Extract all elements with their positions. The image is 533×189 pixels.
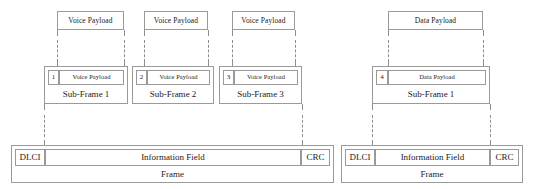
connector-dashed bbox=[490, 115, 491, 137]
sub-frame-number-box-2: 2 bbox=[136, 70, 147, 85]
top-payload-label-3: Voice Payload bbox=[241, 17, 285, 25]
crc-label-left: CRC bbox=[306, 153, 324, 162]
dlci-box-right: DLCI bbox=[345, 149, 375, 166]
information-field-box-left: Information Field bbox=[45, 149, 301, 166]
sub-frame-payload-label-4: Data Payload bbox=[419, 74, 454, 81]
frame-caption-left: Frame bbox=[11, 167, 334, 181]
information-field-box-right: Information Field bbox=[375, 149, 490, 166]
sub-frame-payload-label-2: Voice Payload bbox=[160, 74, 198, 81]
crc-box-left: CRC bbox=[301, 149, 330, 166]
frame-caption-right: Frame bbox=[341, 167, 523, 181]
information-field-label-right: Information Field bbox=[401, 153, 465, 162]
dlci-label-left: DLCI bbox=[20, 153, 41, 162]
connector-dashed bbox=[232, 40, 233, 62]
connector-dashed bbox=[57, 40, 58, 62]
sub-frame-number-2: 2 bbox=[140, 74, 144, 81]
sub-frame-caption-3: Sub-Frame 3 bbox=[219, 87, 302, 102]
stub-line bbox=[483, 30, 484, 36]
connector-dashed bbox=[302, 115, 303, 137]
stub-line bbox=[44, 104, 45, 110]
dlci-box-left: DLCI bbox=[15, 149, 45, 166]
sub-frame-number-1: 1 bbox=[52, 74, 56, 81]
stub-line bbox=[57, 30, 58, 36]
connector-dashed bbox=[372, 115, 373, 137]
stub-line bbox=[232, 30, 233, 36]
sub-frame-caption-2: Sub-Frame 2 bbox=[132, 87, 214, 102]
connector-dashed bbox=[44, 115, 45, 137]
stub-line bbox=[124, 30, 125, 36]
connector-dashed bbox=[483, 40, 484, 62]
sub-frame-payload-box-2: Voice Payload bbox=[147, 70, 210, 85]
sub-frame-number-box-4: 4 bbox=[376, 70, 388, 85]
top-payload-label-1: Voice Payload bbox=[68, 17, 112, 25]
connector-dashed bbox=[208, 40, 209, 62]
top-payload-box-3: Voice Payload bbox=[232, 11, 295, 30]
top-payload-label-4: Data Payload bbox=[415, 17, 456, 25]
sub-frame-payload-box-3: Voice Payload bbox=[234, 70, 298, 85]
sub-frame-caption-1: Sub-Frame 1 bbox=[44, 87, 128, 102]
stub-line bbox=[144, 30, 145, 36]
dlci-label-right: DLCI bbox=[350, 153, 371, 162]
top-payload-box-1: Voice Payload bbox=[57, 11, 124, 30]
diagram-canvas: Voice Payload Voice Payload Voice Payloa… bbox=[0, 0, 533, 189]
top-payload-label-2: Voice Payload bbox=[154, 17, 198, 25]
stub-line bbox=[388, 30, 389, 36]
top-payload-box-4: Data Payload bbox=[388, 11, 483, 30]
crc-box-right: CRC bbox=[490, 149, 519, 166]
sub-frame-number-box-1: 1 bbox=[48, 70, 59, 85]
sub-frame-caption-4: Sub-Frame 1 bbox=[372, 87, 490, 102]
stub-line bbox=[490, 104, 491, 110]
information-field-label-left: Information Field bbox=[141, 153, 205, 162]
sub-frame-payload-box-1: Voice Payload bbox=[59, 70, 124, 85]
connector-dashed bbox=[388, 40, 389, 62]
sub-frame-number-3: 3 bbox=[227, 74, 231, 81]
sub-frame-payload-box-4: Data Payload bbox=[388, 70, 486, 85]
crc-label-right: CRC bbox=[495, 153, 513, 162]
sub-frame-number-box-3: 3 bbox=[223, 70, 234, 85]
stub-line bbox=[372, 104, 373, 110]
sub-frame-number-4: 4 bbox=[380, 74, 384, 81]
top-payload-box-2: Voice Payload bbox=[144, 11, 208, 30]
connector-dashed bbox=[295, 40, 296, 62]
connector-dashed bbox=[144, 40, 145, 62]
stub-line bbox=[208, 30, 209, 36]
stub-line bbox=[302, 104, 303, 110]
stub-line bbox=[295, 30, 296, 36]
connector-dashed bbox=[124, 40, 125, 62]
sub-frame-payload-label-3: Voice Payload bbox=[247, 74, 285, 81]
sub-frame-payload-label-1: Voice Payload bbox=[73, 74, 111, 81]
